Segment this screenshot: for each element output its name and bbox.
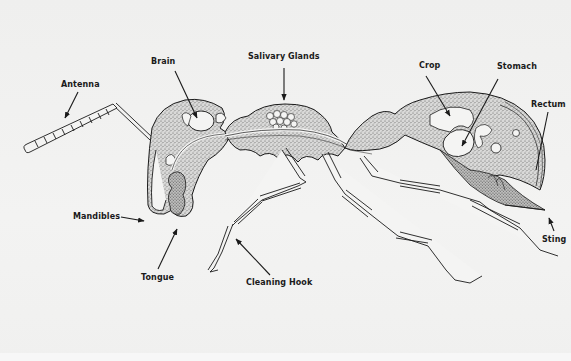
sting-arrow <box>549 218 554 231</box>
page-edge <box>0 353 571 361</box>
antenna-drawing <box>24 103 153 153</box>
thorax-drawing <box>225 104 372 162</box>
label-antenna: Antenna <box>61 80 100 89</box>
mandibles-arrow <box>121 217 144 221</box>
label-crop: Crop <box>419 61 440 70</box>
label-salivary-glands: Salivary Glands <box>248 52 320 61</box>
cleaning-hook-arrow <box>236 239 270 275</box>
label-tongue: Tongue <box>141 273 174 282</box>
diagram-canvas: Antenna Brain Salivary Glands Crop Stoma… <box>0 0 571 361</box>
label-cleaning-hook: Cleaning Hook <box>246 278 312 287</box>
label-mandibles: Mandibles <box>73 212 120 221</box>
label-brain: Brain <box>151 57 175 66</box>
label-rectum: Rectum <box>531 100 566 109</box>
tongue-arrow <box>158 229 177 269</box>
label-stomach: Stomach <box>497 62 537 71</box>
label-sting: Sting <box>542 235 566 244</box>
antenna-arrow <box>65 92 78 118</box>
